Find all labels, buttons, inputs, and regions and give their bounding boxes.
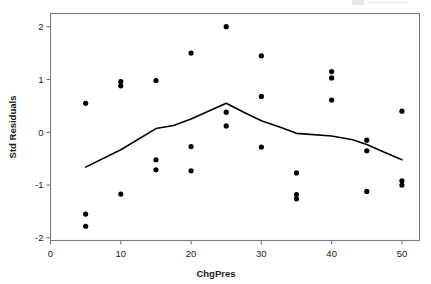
y-tick-label--1: -1 bbox=[35, 179, 43, 190]
data-point bbox=[83, 224, 88, 229]
data-point bbox=[329, 75, 334, 80]
data-point bbox=[224, 24, 229, 29]
data-point bbox=[364, 138, 369, 143]
data-point bbox=[188, 168, 193, 173]
scatter-plot-figure: -2-1012 01020304050 ChgPres Std Residual… bbox=[0, 0, 431, 284]
data-point bbox=[259, 144, 264, 149]
x-tick-label-20: 20 bbox=[186, 248, 197, 259]
data-point bbox=[188, 144, 193, 149]
y-axis-title: Std Residuals bbox=[7, 96, 18, 159]
data-point bbox=[224, 123, 229, 128]
x-tick-label-40: 40 bbox=[326, 248, 337, 259]
chart-canvas: -2-1012 01020304050 ChgPres Std Residual… bbox=[0, 0, 431, 284]
data-point bbox=[153, 157, 158, 162]
data-point bbox=[118, 83, 123, 88]
data-point bbox=[83, 101, 88, 106]
data-point bbox=[329, 69, 334, 74]
data-point bbox=[294, 170, 299, 175]
x-tick-label-50: 50 bbox=[397, 248, 408, 259]
data-point bbox=[224, 110, 229, 115]
data-point bbox=[294, 196, 299, 201]
x-tick-label-0: 0 bbox=[48, 248, 53, 259]
data-point bbox=[188, 50, 193, 55]
data-point bbox=[83, 212, 88, 217]
data-point bbox=[153, 78, 158, 83]
x-axis-title: ChgPres bbox=[196, 268, 235, 279]
data-point bbox=[364, 189, 369, 194]
y-tick-label-2: 2 bbox=[38, 21, 43, 32]
data-point bbox=[118, 191, 123, 196]
y-tick-label-1: 1 bbox=[38, 74, 43, 85]
data-point bbox=[399, 109, 404, 114]
data-point bbox=[259, 94, 264, 99]
data-point bbox=[364, 148, 369, 153]
data-point bbox=[329, 97, 334, 102]
data-point bbox=[153, 167, 158, 172]
data-point bbox=[259, 53, 264, 58]
x-tick-label-30: 30 bbox=[256, 248, 267, 259]
y-tick-label-0: 0 bbox=[38, 127, 43, 138]
data-point bbox=[399, 182, 404, 187]
y-tick-label--2: -2 bbox=[35, 232, 43, 243]
x-tick-label-10: 10 bbox=[115, 248, 126, 259]
